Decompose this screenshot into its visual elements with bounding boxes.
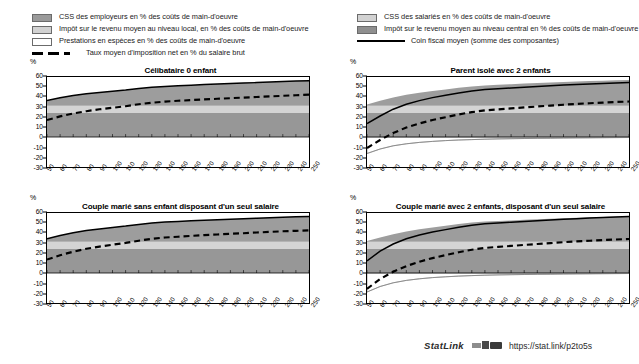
chart-grid: Célibataire 0 enfant%6050403020100-10-20… [0, 62, 639, 334]
y-axis-tick-label: 30 [356, 103, 363, 110]
area-band [47, 113, 309, 137]
y-axis-tick-label: 40 [356, 229, 363, 236]
y-axis-tick-label: -20 [33, 154, 43, 161]
y-axis-tick-label: -10 [33, 144, 43, 151]
y-axis-tick-label: 40 [36, 229, 43, 236]
x-axis-tick-label: 250 [630, 160, 639, 172]
chart-title: Couple marié avec 2 enfants, disposant d… [366, 202, 635, 211]
legend-column-right: CSS des salariés en % des coûts de main-… [357, 12, 639, 48]
legend-swatch-local-income-tax-icon [32, 26, 52, 34]
statlink-label: StatLink [424, 340, 464, 351]
y-axis-unit: % [30, 58, 36, 65]
legend-label: Taux moyen d'imposition net en % du sala… [86, 48, 245, 58]
y-axis-tick-label: 50 [356, 219, 363, 226]
y-axis-unit: % [350, 58, 356, 65]
statlink-block[interactable]: StatLink https://stat.link/p2to5s [424, 340, 592, 351]
figure-footer: StatLink https://stat.link/p2to5s [0, 336, 639, 364]
y-axis-tick-label: -10 [353, 144, 363, 151]
y-axis: 6050403020100-10-20-30 [0, 212, 46, 304]
y-axis-tick-label: 10 [36, 260, 43, 267]
legend-item: Impôt sur le revenu moyen au niveau cent… [357, 24, 639, 35]
legend-item: Taux moyen d'imposition net en % du sala… [32, 48, 332, 59]
legend-label: CSS des employeurs en % des coûts de mai… [59, 12, 238, 22]
y-axis-tick-label: 10 [356, 260, 363, 267]
y-axis: 6050403020100-10-20-30 [320, 76, 366, 168]
y-axis-tick-label: 30 [36, 103, 43, 110]
plot-area [366, 76, 630, 168]
y-axis-tick-label: 10 [36, 124, 43, 131]
y-axis-unit: % [30, 194, 36, 201]
y-axis-tick-label: -20 [353, 290, 363, 297]
x-axis: 5060708090100110120130140150160170180190… [366, 305, 630, 333]
y-axis-tick-label: 20 [356, 114, 363, 121]
legend-item: Impôt sur le revenu moyen au niveau loca… [32, 24, 332, 35]
legend-item: CSS des employeurs en % des coûts de mai… [32, 12, 332, 23]
legend-item: CSS des salariés en % des coûts de main-… [357, 12, 639, 23]
y-axis-tick-label: -20 [33, 290, 43, 297]
x-axis-tick-label: 250 [630, 296, 639, 308]
y-axis-tick-label: 20 [36, 114, 43, 121]
area-band [367, 113, 629, 137]
area-band [47, 249, 309, 273]
y-axis-tick-label: -10 [353, 280, 363, 287]
legend-swatch-central-income-tax-icon [357, 26, 377, 34]
y-axis-tick-label: 20 [356, 250, 363, 257]
legend-item: Prestations en espèces en % des coûts de… [32, 36, 332, 47]
legend-swatch-employer-ssc-icon [32, 14, 52, 22]
legend-swatch-employee-ssc-icon [357, 14, 377, 22]
legend-dashed-line-icon [32, 49, 80, 58]
x-axis-tick-label: 80 [406, 299, 415, 308]
y-axis-tick-label: 50 [356, 83, 363, 90]
y-axis-tick-label: 50 [36, 83, 43, 90]
y-axis-tick-label: 60 [36, 73, 43, 80]
y-axis-tick-label: -30 [33, 301, 43, 308]
chart-legend: CSS des employeurs en % des coûts de mai… [0, 0, 639, 62]
figure-root: CSS des employeurs en % des coûts de mai… [0, 0, 639, 364]
y-axis-tick-label: 40 [356, 93, 363, 100]
plot-area [366, 212, 630, 304]
y-axis: 6050403020100-10-20-30 [320, 212, 366, 304]
y-axis-tick-label: 60 [356, 209, 363, 216]
plot-area [46, 212, 310, 304]
y-axis-tick-label: -30 [353, 165, 363, 172]
x-axis-tick-label: 80 [86, 163, 95, 172]
chart-panel-couple-marie-sans-enfant: Couple marié sans enfant disposant d'un … [0, 198, 319, 334]
x-axis-tick-label: 80 [86, 299, 95, 308]
legend-label: Prestations en espèces en % des coûts de… [59, 36, 245, 46]
legend-label: Impôt sur le revenu moyen au niveau loca… [59, 24, 308, 34]
x-axis: 5060708090100110120130140150160170180190… [46, 305, 310, 333]
y-axis-tick-label: 60 [356, 73, 363, 80]
area-band [47, 216, 309, 241]
y-axis-tick-label: 40 [36, 93, 43, 100]
y-axis-tick-label: 30 [36, 239, 43, 246]
x-axis: 5060708090100110120130140150160170180190… [366, 169, 630, 197]
legend-item: Coin fiscal moyen (somme des composantes… [357, 36, 639, 47]
chart-title: Célibataire 0 enfant [46, 66, 315, 75]
y-axis: 6050403020100-10-20-30 [0, 76, 46, 168]
y-axis-tick-label: -30 [33, 165, 43, 172]
x-axis: 5060708090100110120130140150160170180190… [46, 169, 310, 197]
statlink-url[interactable]: https://stat.link/p2to5s [509, 341, 592, 351]
y-axis-tick-label: 10 [356, 124, 363, 131]
area-band [367, 216, 629, 242]
x-axis-tick-label: 80 [406, 163, 415, 172]
y-axis-tick-label: -20 [353, 154, 363, 161]
legend-swatch-cash-benefits-icon [32, 38, 52, 46]
sims-logo-icon [472, 341, 502, 350]
area-band [367, 106, 629, 113]
legend-label: Coin fiscal moyen (somme des composantes… [411, 36, 559, 46]
chart-title: Couple marié sans enfant disposant d'un … [46, 202, 315, 211]
y-axis-tick-label: 50 [36, 219, 43, 226]
chart-panel-parent-isole-avec-2-enfants: Parent isolé avec 2 enfants%605040302010… [320, 62, 639, 198]
y-axis-unit: % [350, 194, 356, 201]
y-axis-tick-label: 30 [356, 239, 363, 246]
legend-solid-line-icon [357, 37, 405, 46]
chart-panel-celibataire-0-enfant: Célibataire 0 enfant%6050403020100-10-20… [0, 62, 319, 198]
y-axis-tick-label: 60 [36, 209, 43, 216]
y-axis-tick-label: -30 [353, 301, 363, 308]
chart-panel-couple-marie-avec-2-enfants: Couple marié avec 2 enfants, disposant d… [320, 198, 639, 334]
y-axis-tick-label: 20 [36, 250, 43, 257]
area-band-negative [367, 273, 629, 292]
legend-label: CSS des salariés en % des coûts de main-… [384, 12, 550, 22]
chart-title: Parent isolé avec 2 enfants [366, 66, 635, 75]
